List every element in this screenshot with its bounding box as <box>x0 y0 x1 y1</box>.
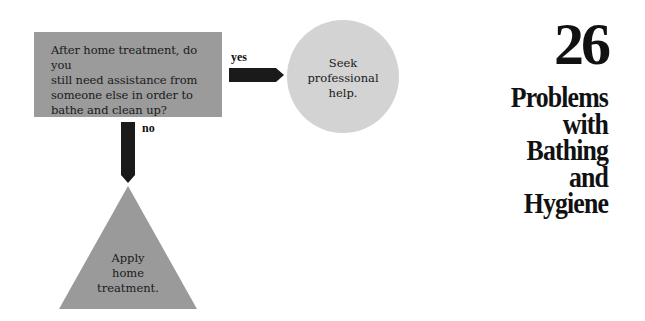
question-line: still need assistance from <box>51 73 221 88</box>
chapter-number: 26 <box>554 14 608 74</box>
no-arrow-icon <box>121 122 135 184</box>
circle-line: professional <box>287 71 399 86</box>
circle-line: help. <box>287 86 399 101</box>
circle-line: Seek <box>287 56 399 71</box>
question-text: After home treatment, do you still need … <box>51 43 221 118</box>
home-treatment-text: Apply home treatment. <box>78 251 178 296</box>
seek-help-text: Seek professional help. <box>287 56 399 101</box>
yes-label: yes <box>231 50 247 65</box>
triangle-line: treatment. <box>78 281 178 296</box>
chapter-title: Problems with Bathing and Hygiene <box>436 84 608 217</box>
question-line: someone else in order to <box>51 88 221 103</box>
question-line: bathe and clean up? <box>51 103 221 118</box>
triangle-line: home <box>78 266 178 281</box>
triangle-line: Apply <box>78 251 178 266</box>
question-line: After home treatment, do you <box>51 43 221 73</box>
yes-arrow-icon <box>229 67 285 83</box>
no-label: no <box>142 121 155 136</box>
title-line: Hygiene <box>436 190 608 217</box>
